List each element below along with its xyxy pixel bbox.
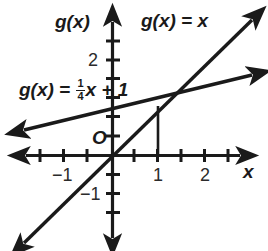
fraction-one-fourth: 14 [76,78,84,102]
coordinate-plane-svg [0,0,268,251]
y-tick-label-2: 2 [88,51,98,69]
x-axis [26,149,240,162]
x-axis-label: x [243,162,254,181]
graph-figure: g(x) x g(x) = x g(x) = 14x + 1 O 2 −1 −1… [0,0,268,251]
annotation-quarter-line: g(x) = 14x + 1 [19,79,128,103]
annotation-identity-line: g(x) = x [141,11,208,30]
y-axis-label: g(x) [55,12,90,31]
x-tick-label-2: 2 [200,166,210,184]
annotation-quarter-line-prefix: g(x) = [19,79,75,100]
line-identity [24,20,252,243]
x-tick-label-1: 1 [153,166,163,184]
origin-label: O [92,128,107,147]
y-tick-label-neg1: −1 [80,185,101,203]
fraction-numerator: 1 [76,78,84,91]
x-tick-label-neg1: −1 [52,166,73,184]
fraction-denominator: 4 [76,91,84,103]
y-axis [106,22,120,238]
annotation-quarter-line-suffix: x + 1 [86,79,129,100]
